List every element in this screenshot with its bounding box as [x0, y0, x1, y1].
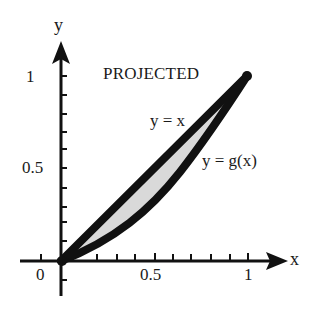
x-tick-label-1: 1	[244, 266, 253, 283]
y-tick-label-1: 1	[26, 68, 35, 85]
y-axis-label: y	[54, 16, 63, 34]
x-tick-label-0: 0	[36, 266, 45, 283]
x-axis-label: x	[290, 250, 299, 268]
curve-label-identity: y = x	[150, 112, 185, 129]
curve-label-g-of-x: y = g(x)	[202, 152, 257, 169]
x-tick-label-0.5: 0.5	[140, 266, 161, 283]
endpoint-dot	[242, 71, 252, 81]
diagram-title: PROJECTED	[103, 65, 199, 82]
y-tick-label-0.5: 0.5	[22, 159, 43, 176]
